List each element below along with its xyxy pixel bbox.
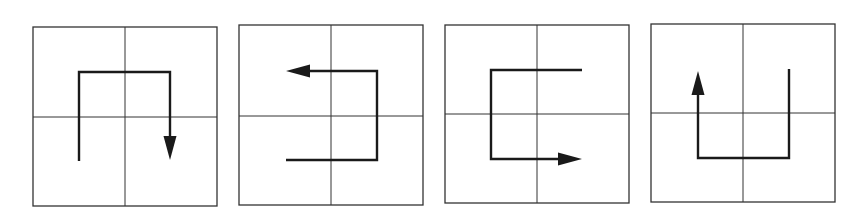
arrowhead-down-icon	[164, 136, 177, 160]
arrowhead-up-icon	[692, 71, 705, 95]
arrow-path-diagram	[0, 0, 866, 211]
panel-2	[239, 25, 423, 205]
arrowhead-right-icon	[558, 153, 582, 166]
panel-4	[651, 24, 835, 202]
arrowhead-left-icon	[286, 65, 310, 78]
panel-3	[445, 25, 629, 203]
panel-1	[33, 27, 217, 206]
